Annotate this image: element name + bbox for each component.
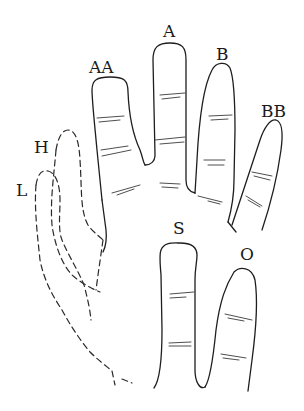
thumb-outline-l: [35, 171, 132, 385]
label-l: L: [16, 180, 27, 200]
finger-o: [205, 268, 256, 391]
finger-s: [154, 243, 205, 388]
finger-b: [195, 63, 235, 222]
label-b: B: [216, 44, 229, 64]
palm-outline: [102, 189, 236, 252]
finger-bb: [232, 120, 282, 230]
label-aa: AA: [88, 57, 114, 77]
label-bb: BB: [261, 101, 286, 121]
label-s: S: [173, 218, 185, 238]
finger-a: [145, 43, 195, 193]
label-o: O: [240, 244, 254, 264]
finger-aa: [92, 77, 145, 200]
label-a: A: [162, 21, 176, 41]
label-h: H: [34, 137, 49, 157]
hand-diagram: AA A B BB H L S O: [0, 0, 304, 411]
